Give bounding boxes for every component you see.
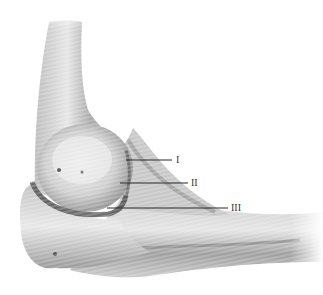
label-I: I	[176, 155, 179, 165]
label-III: III	[231, 203, 241, 213]
label-II: II	[191, 178, 198, 188]
elbow-bones-drawing	[0, 0, 323, 295]
anatomical-illustration: I II III	[0, 0, 323, 295]
